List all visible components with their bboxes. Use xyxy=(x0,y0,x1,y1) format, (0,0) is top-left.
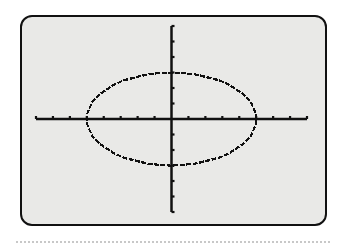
dotted-divider xyxy=(16,241,330,243)
graph-plot xyxy=(0,0,350,252)
axes xyxy=(36,26,307,212)
